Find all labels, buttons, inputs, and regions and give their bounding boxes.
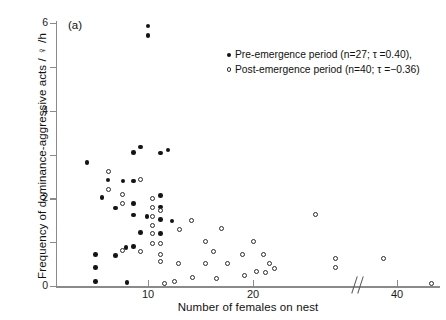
y-tick-0: [50, 286, 56, 287]
data-point: [138, 249, 143, 254]
data-point: [150, 223, 155, 228]
data-point: [272, 266, 277, 271]
data-point: [131, 213, 136, 218]
data-point: [150, 214, 155, 219]
legend-label-post-emergence: Post-emergence period (n=40; τ =−0.36): [235, 64, 420, 76]
x-tick-40: [397, 280, 398, 286]
legend: Pre-emergence period (n=27; τ =0.40), Po…: [223, 48, 438, 78]
data-point: [145, 214, 150, 219]
data-point: [124, 245, 129, 250]
data-point: [120, 248, 125, 253]
data-point: [106, 169, 111, 174]
data-point: [263, 270, 268, 275]
data-point: [166, 148, 171, 153]
data-point: [85, 160, 90, 165]
x-tick-label-40: 40: [377, 288, 417, 300]
x-axis-break-icon: [350, 276, 372, 294]
filled-circle-icon: [223, 53, 235, 57]
y-tick-3: [50, 155, 56, 156]
data-point: [158, 217, 163, 222]
data-point: [113, 253, 118, 258]
data-point: [138, 230, 143, 235]
data-point: [267, 261, 272, 266]
data-point: [121, 179, 126, 184]
data-point: [158, 252, 163, 257]
data-point: [113, 206, 118, 211]
x-tick-label-20: 20: [233, 288, 273, 300]
data-point: [170, 219, 175, 224]
data-point: [176, 261, 181, 266]
data-point: [158, 193, 163, 198]
data-point: [189, 218, 194, 223]
data-point: [93, 279, 98, 284]
data-point: [125, 280, 130, 285]
data-point: [146, 24, 151, 29]
legend-entry-post-emergence: Post-emergence period (n=40; τ =−0.36): [223, 63, 438, 76]
data-point: [219, 226, 224, 231]
data-point: [203, 239, 208, 244]
data-point: [158, 151, 163, 156]
data-point: [190, 275, 195, 280]
data-point: [150, 196, 155, 201]
data-point: [158, 231, 163, 236]
y-tick-2: [50, 198, 56, 199]
data-point: [158, 205, 163, 210]
data-point: [146, 33, 151, 38]
data-point: [131, 150, 136, 155]
data-point: [120, 201, 125, 206]
panel-label: (a): [68, 19, 82, 31]
data-point: [177, 227, 182, 232]
data-point: [138, 145, 143, 150]
data-point: [150, 241, 155, 246]
x-tick-label-10: 10: [128, 288, 168, 300]
data-point: [158, 208, 163, 213]
y-axis-label: Frequency of dominance-aggressive acts /…: [36, 21, 48, 291]
data-point: [150, 231, 155, 236]
data-point: [211, 249, 216, 254]
data-point: [214, 276, 219, 281]
data-point: [131, 244, 136, 249]
y-tick-1: [50, 242, 56, 243]
data-point: [131, 179, 136, 184]
data-point: [254, 269, 259, 274]
data-point: [240, 252, 245, 257]
data-point: [100, 195, 105, 200]
data-point: [93, 265, 98, 270]
data-point: [120, 192, 125, 197]
data-point: [261, 252, 266, 257]
scatter-plot-figure: (a) 0246 102040 Number of females on nes…: [0, 0, 446, 320]
data-point: [333, 265, 338, 270]
data-point: [131, 201, 136, 206]
y-tick-5: [50, 67, 56, 68]
data-point: [242, 273, 247, 278]
open-circle-icon: [223, 67, 235, 71]
y-axis-line: [56, 21, 57, 287]
data-point: [158, 259, 163, 264]
data-point: [203, 261, 208, 266]
x-axis-label: Number of females on nest: [118, 301, 378, 313]
data-point: [93, 252, 98, 257]
y-tick-6: [50, 23, 56, 24]
legend-label-pre-emergence: Pre-emergence period (n=27; τ =0.40),: [235, 49, 412, 61]
data-point: [106, 178, 111, 183]
data-point: [172, 279, 177, 284]
data-point: [158, 241, 163, 246]
data-point: [106, 187, 111, 192]
data-point: [313, 212, 318, 217]
legend-entry-pre-emergence: Pre-emergence period (n=27; τ =0.40),: [223, 48, 438, 61]
data-point: [225, 261, 230, 266]
x-tick-20: [253, 280, 254, 286]
data-point: [138, 177, 143, 182]
data-point: [251, 239, 256, 244]
data-point: [150, 205, 155, 210]
data-point: [381, 256, 386, 261]
data-point: [333, 256, 338, 261]
y-tick-4: [50, 111, 56, 112]
x-tick-10: [148, 280, 149, 286]
